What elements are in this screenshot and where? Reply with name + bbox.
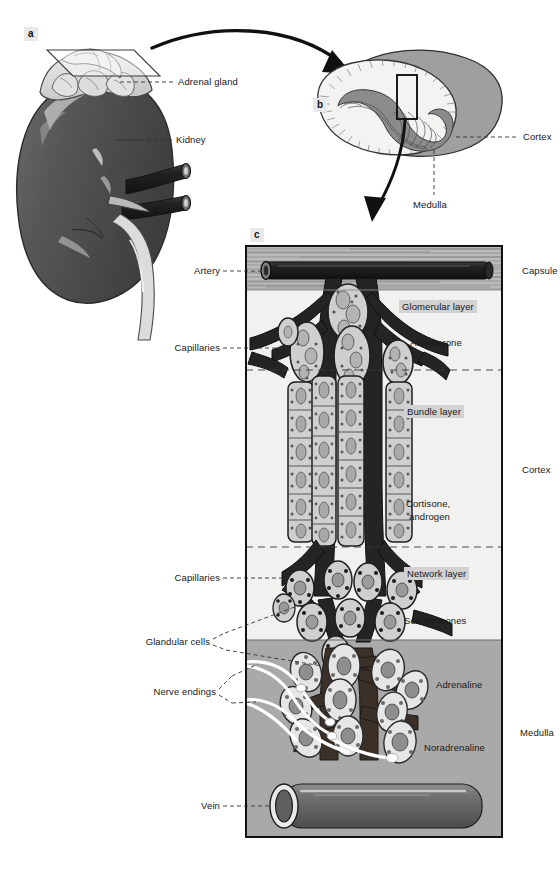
label-adrenaline: Adrenaline [436,679,482,690]
label-cortex-c: Cortex [522,464,551,475]
label-vein: Vein [150,800,220,811]
label-noradrenaline: Noradrenaline [424,742,485,753]
label-glomerular-layer: Glomerular layer [399,301,477,312]
label-bundle-layer: Bundle layer [404,406,464,417]
arrow-b-to-c [364,196,386,222]
label-cortisone-line2: androgen [409,511,450,522]
label-kidney: Kidney [176,134,206,145]
label-capsule: Capsule [522,265,558,276]
label-glandular-cells: Glandular cells [90,636,210,647]
label-nerve-endings: Nerve endings [96,686,216,697]
figure-adrenal-gland: a b c Adrenal gland Kidney Cortex Medull… [0,0,560,876]
label-network-layer: Network layer [404,568,469,579]
label-artery: Artery [120,265,220,276]
panel-b-illustration [318,50,518,222]
label-cortex-b: Cortex [523,131,552,142]
panel-letter-c: c [250,228,264,242]
label-sex-hormones: Sex hormones [404,615,466,626]
label-capillaries-upper: Capillaries [110,342,220,353]
label-medulla-c: Medulla [520,727,554,738]
artery-vessel [261,262,493,280]
network-layer-text: Network layer [404,567,469,580]
bundle-cell-columns [288,376,412,546]
label-aldosterone: Aldosterone [410,337,462,348]
label-cortisone-line1: Cortisone, [406,498,450,509]
label-medulla-b: Medulla [413,199,447,210]
label-capillaries-lower: Capillaries [110,572,220,583]
panel-letter-b: b [313,98,327,112]
label-adrenal-gland: Adrenal gland [178,76,238,87]
bundle-layer-text: Bundle layer [404,405,464,418]
panel-letter-a: a [24,27,38,41]
glomerular-layer-text: Glomerular layer [399,300,477,313]
vein-vessel [270,784,482,828]
